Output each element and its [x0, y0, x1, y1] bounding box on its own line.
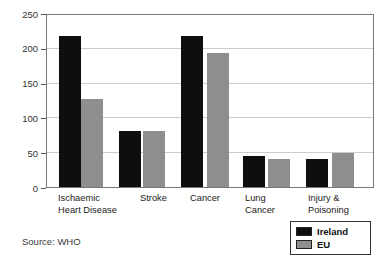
source-note: Source: WHO — [22, 236, 81, 247]
legend-row-eu: EU — [296, 238, 365, 251]
bar-eu-stroke — [143, 131, 165, 187]
y-tick-250 — [41, 14, 46, 15]
bar-ireland-cancer — [181, 36, 203, 187]
y-tick-label-0: 0 — [2, 183, 38, 194]
x-label-ischaemic-heart-disease: Ischaemic Heart Disease — [58, 193, 117, 216]
x-label-lung-cancer: Lung Cancer — [245, 193, 275, 216]
bar-ireland-ischaemic-heart-disease — [59, 36, 81, 187]
legend-row-ireland: Ireland — [296, 225, 365, 238]
legend-label-ireland: Ireland — [317, 226, 348, 237]
y-tick-label-200: 200 — [2, 43, 38, 54]
y-tick-100 — [41, 118, 46, 119]
y-tick-50 — [41, 153, 46, 154]
legend-swatch-eu — [296, 240, 312, 249]
bar-eu-cancer — [207, 53, 229, 187]
legend-label-eu: EU — [317, 239, 330, 250]
legend: IrelandEU — [290, 221, 371, 255]
x-label-stroke: Stroke — [140, 193, 167, 205]
y-tick-0 — [41, 188, 46, 189]
y-tick-150 — [41, 84, 46, 85]
plot-area — [46, 14, 374, 188]
bar-ireland-injury-poisoning — [306, 159, 328, 187]
y-tick-label-100: 100 — [2, 113, 38, 124]
x-label-injury-poisoning: Injury & Poisoning — [308, 193, 349, 216]
y-tick-200 — [41, 49, 46, 50]
y-tick-label-250: 250 — [2, 9, 38, 20]
bar-eu-lung-cancer — [268, 159, 290, 187]
y-tick-label-50: 50 — [2, 148, 38, 159]
gridline-200 — [47, 48, 373, 49]
bar-ireland-lung-cancer — [243, 156, 265, 187]
bar-ireland-stroke — [119, 131, 141, 187]
bar-eu-ischaemic-heart-disease — [81, 99, 103, 187]
mortality-bar-chart: Source: WHO IrelandEU 050100150200250Isc… — [0, 0, 388, 271]
bar-eu-injury-poisoning — [332, 153, 354, 187]
y-tick-label-150: 150 — [2, 78, 38, 89]
legend-swatch-ireland — [296, 227, 312, 236]
x-label-cancer: Cancer — [190, 193, 220, 205]
